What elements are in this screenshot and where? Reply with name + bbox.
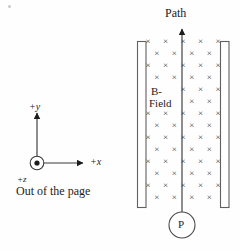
field-cross-icon: × [215,36,220,46]
out-of-page-dot-icon [34,160,39,165]
field-cross-icon: × [180,108,185,118]
field-cross-icon: × [163,132,168,142]
field-cross-icon: × [207,96,212,106]
field-cross-icon: × [180,180,185,190]
field-cross-icon: × [172,168,177,178]
field-cross-icon: × [189,120,194,130]
field-cross-icon: × [215,60,220,70]
field-cross-icon: × [198,132,203,142]
field-cross-icon: × [172,192,177,202]
diagram-canvas: ××××××××××××××××××××××××××××××××××××××××… [0,0,240,251]
field-cross-icon: × [154,120,159,130]
field-cross-icon: × [189,192,194,202]
field-cross-icon: × [145,180,150,190]
field-cross-icon: × [154,48,159,58]
field-cross-icon: × [207,120,212,130]
right-plate [221,42,230,208]
field-cross-icon: × [154,144,159,154]
field-cross-icon: × [163,36,168,46]
field-cross-icon: × [172,48,177,58]
field-cross-icon: × [145,156,150,166]
field-cross-icon: × [163,108,168,118]
field-cross-icon: × [198,156,203,166]
particle-label: P [178,219,184,230]
field-cross-icon: × [145,108,150,118]
field-cross-icon: × [180,156,185,166]
field-cross-icon: × [154,168,159,178]
field-cross-icon: × [207,48,212,58]
field-cross-icon: × [180,60,185,70]
field-cross-icon: × [215,132,220,142]
field-cross-icon: × [180,36,185,46]
field-cross-icon: × [180,84,185,94]
field-cross-icon: × [189,144,194,154]
field-cross-icon: × [207,168,212,178]
field-cross-icon: × [215,156,220,166]
physics-diagram: ××××××××××××××××××××××××××××××××××××××××… [0,0,240,251]
field-cross-icon: × [189,48,194,58]
field-cross-icon: × [145,36,150,46]
field-cross-icon: × [180,132,185,142]
field-cross-icon: × [189,72,194,82]
field-cross-icon: × [198,60,203,70]
field-cross-icon: × [198,108,203,118]
field-cross-icon: × [154,192,159,202]
field-cross-icon: × [189,96,194,106]
field-cross-icon: × [163,60,168,70]
b-field-label-line2: Field [149,98,172,109]
field-cross-icon: × [207,144,212,154]
field-cross-icon: × [215,180,220,190]
field-cross-icon: × [198,84,203,94]
field-cross-icon: × [207,72,212,82]
field-cross-icon: × [163,180,168,190]
field-cross-icon: × [198,180,203,190]
axis-z-label: +z [17,175,27,184]
field-cross-icon: × [145,60,150,70]
field-cross-icon: × [172,120,177,130]
field-cross-icon: × [189,168,194,178]
axis-y-label: +y [29,102,40,112]
field-cross-icon: × [215,84,220,94]
magnetic-field-crosses: ××××××××××××××××××××××××××××××××××××××××… [145,36,220,202]
field-cross-icon: × [172,72,177,82]
b-field-label-line1: B- [151,86,162,97]
field-cross-icon: × [207,192,212,202]
path-label: Path [165,7,186,19]
out-of-page-label: Out of the page [16,185,90,197]
axis-x-label: +x [90,157,101,167]
field-cross-icon: × [145,132,150,142]
field-cross-icon: × [172,144,177,154]
coordinate-axes-group [30,113,83,170]
field-cross-icon: × [154,72,159,82]
field-cross-icon: × [198,36,203,46]
field-cross-icon: × [215,108,220,118]
field-cross-icon: × [163,156,168,166]
